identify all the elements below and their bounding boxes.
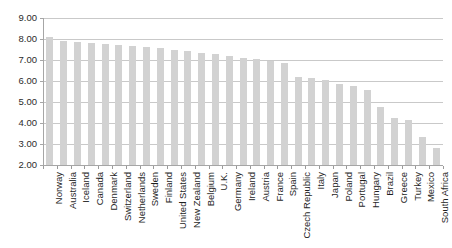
x-axis-category-label: Finland xyxy=(164,172,174,203)
x-axis-tick-mark xyxy=(84,166,85,169)
x-axis-tick-mark xyxy=(250,166,251,169)
x-axis-tick-mark xyxy=(71,166,72,169)
x-axis-category-label: Czech Republic xyxy=(302,172,312,239)
bar xyxy=(184,51,191,165)
x-axis-tick-mark xyxy=(360,166,361,169)
x-axis-category-label: Turkey xyxy=(413,172,423,201)
x-axis-category-label: Canada xyxy=(95,172,105,205)
x-axis-tick-mark xyxy=(429,166,430,169)
x-axis-tick-mark xyxy=(236,166,237,169)
x-axis-tick-mark xyxy=(222,166,223,169)
bar xyxy=(281,63,288,165)
x-axis-category-label: Mexico xyxy=(426,172,436,202)
bar xyxy=(129,46,136,165)
x-axis-category-label: Australia xyxy=(68,172,78,209)
y-axis-line xyxy=(43,18,44,165)
bar xyxy=(143,47,150,165)
bar xyxy=(226,56,233,165)
bar xyxy=(60,41,67,165)
x-axis-tick-mark xyxy=(277,166,278,169)
y-axis-labels: 9.008.007.006.005.004.003.002.00 xyxy=(0,0,40,248)
bar xyxy=(115,45,122,165)
x-axis-category-label: Italy xyxy=(316,172,326,189)
x-axis-category-label: New Zealand xyxy=(192,172,202,228)
x-axis-category-label: Spain xyxy=(288,172,298,196)
x-axis-category-label: Japan xyxy=(330,172,340,198)
bar xyxy=(240,58,247,165)
x-axis-tick-mark xyxy=(140,166,141,169)
x-axis-tick-mark xyxy=(443,166,444,169)
x-axis-tick-mark xyxy=(195,166,196,169)
x-axis-tick-mark xyxy=(181,166,182,169)
bar xyxy=(433,148,440,165)
bar xyxy=(46,37,53,165)
bar xyxy=(419,137,426,165)
y-axis-tick-label: 8.00 xyxy=(0,34,37,44)
x-axis-tick-mark xyxy=(374,166,375,169)
bar xyxy=(322,80,329,165)
y-axis-tick-label: 9.00 xyxy=(0,13,37,23)
y-axis-tick-label: 5.00 xyxy=(0,97,37,107)
x-axis-tick-mark xyxy=(305,166,306,169)
bar xyxy=(74,42,81,165)
x-axis-tick-mark xyxy=(333,166,334,169)
bar xyxy=(350,86,357,165)
x-axis-category-label: Poland xyxy=(344,172,354,202)
x-axis-tick-mark xyxy=(388,166,389,169)
x-axis-tick-mark xyxy=(57,166,58,169)
plot-area xyxy=(43,18,443,165)
x-axis-category-label: Netherlands xyxy=(137,172,147,223)
x-axis-tick-mark xyxy=(346,166,347,169)
x-axis-category-label: Norway xyxy=(54,172,64,204)
bar xyxy=(377,107,384,165)
y-axis-tick-label: 4.00 xyxy=(0,118,37,128)
x-axis-tick-mark xyxy=(167,166,168,169)
x-axis-category-label: Brazil xyxy=(385,172,395,196)
y-axis-tick-label: 3.00 xyxy=(0,139,37,149)
x-axis-tick-mark xyxy=(209,166,210,169)
x-axis-category-label: Denmark xyxy=(109,172,119,211)
bar xyxy=(308,78,315,165)
x-axis-category-label: Ireland xyxy=(247,172,257,201)
x-axis-category-label: United States xyxy=(178,172,188,229)
bar xyxy=(88,43,95,165)
bar xyxy=(171,50,178,166)
x-axis-category-label: Iceland xyxy=(81,172,91,203)
bar xyxy=(364,90,371,165)
bar xyxy=(253,59,260,165)
bar xyxy=(198,53,205,165)
x-axis-category-label: U.K. xyxy=(219,172,229,190)
x-axis-category-label: Belgium xyxy=(206,172,216,206)
bar-chart: 9.008.007.006.005.004.003.002.00 NorwayA… xyxy=(0,0,452,248)
x-axis-tick-mark xyxy=(291,166,292,169)
bar xyxy=(391,118,398,165)
x-axis-category-label: Germany xyxy=(233,172,243,211)
x-axis-category-label: Switzerland xyxy=(123,172,133,221)
bar xyxy=(295,77,302,165)
y-axis-tick-label: 6.00 xyxy=(0,76,37,86)
x-axis-category-label: Portugal xyxy=(357,172,367,207)
x-axis-tick-mark xyxy=(98,166,99,169)
x-axis-tick-mark xyxy=(43,166,44,169)
x-axis-tick-mark xyxy=(153,166,154,169)
x-axis-tick-mark xyxy=(402,166,403,169)
x-axis-tick-mark xyxy=(319,166,320,169)
bar-series xyxy=(43,18,443,165)
bar xyxy=(212,54,219,165)
bar xyxy=(157,48,164,165)
x-axis-labels: NorwayAustraliaIcelandCanadaDenmarkSwitz… xyxy=(43,170,443,248)
x-axis-tick-mark xyxy=(112,166,113,169)
x-axis-category-label: South Africa xyxy=(440,172,450,223)
x-axis-category-label: Hungary xyxy=(371,172,381,208)
bar xyxy=(102,44,109,165)
x-axis-tick-mark xyxy=(126,166,127,169)
bar xyxy=(336,84,343,165)
bar xyxy=(267,61,274,165)
x-axis-tick-mark xyxy=(415,166,416,169)
x-axis-category-label: Sweden xyxy=(150,172,160,206)
x-axis-tick-mark xyxy=(264,166,265,169)
x-axis-category-label: Greece xyxy=(399,172,409,203)
x-axis-category-label: Austria xyxy=(261,172,271,202)
x-axis-category-label: France xyxy=(275,172,285,202)
bar xyxy=(405,120,412,165)
